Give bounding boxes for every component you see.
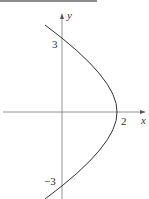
y-axis-arrow-icon [60,13,64,19]
y-tick-neg3: −3 [44,175,56,187]
x-axis-label: x [140,114,146,126]
y-axis-label: y [66,9,72,21]
x-tick-2: 2 [121,115,127,127]
y-tick-3: 3 [52,38,58,50]
graph: y x 2 3 −3 [0,0,149,199]
